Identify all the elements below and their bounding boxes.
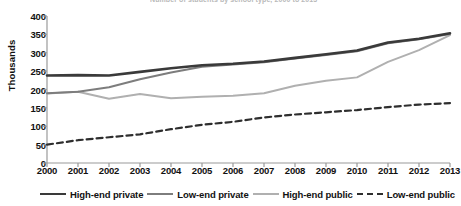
legend-swatch-icon xyxy=(40,193,66,195)
line-chart-figure: Number of students by school type, 2000 … xyxy=(0,0,461,206)
series-line-high-end-public xyxy=(47,35,450,99)
legend-item-high-end-private[interactable]: High-end private xyxy=(40,189,143,200)
plot-svg xyxy=(47,16,450,163)
y-axis-tick-50: 50 xyxy=(14,139,46,150)
legend-swatch-icon xyxy=(357,193,383,195)
y-axis-tick-250: 250 xyxy=(14,66,46,77)
x-axis-tick-2013: 2013 xyxy=(430,165,461,176)
clipped-chart-title: Number of students by school type, 2000 … xyxy=(150,0,450,4)
legend-label: High-end private xyxy=(70,189,143,200)
y-axis-tick-350: 350 xyxy=(14,29,46,40)
y-axis-tick-200: 200 xyxy=(14,84,46,95)
legend-item-high-end-public[interactable]: High-end public xyxy=(253,189,353,200)
series-line-low-end-public xyxy=(47,103,450,145)
series-line-high-end-private xyxy=(47,33,450,75)
y-axis-tick-150: 150 xyxy=(14,102,46,113)
legend-label: Low-end private xyxy=(177,189,248,200)
chart-legend: High-end privateLow-end privateHigh-end … xyxy=(40,186,455,202)
legend-item-low-end-private[interactable]: Low-end private xyxy=(147,189,248,200)
y-axis-tick-300: 300 xyxy=(14,47,46,58)
plot-area xyxy=(47,16,450,163)
legend-item-low-end-public[interactable]: Low-end public xyxy=(357,189,455,200)
legend-label: Low-end public xyxy=(387,189,455,200)
legend-label: High-end public xyxy=(283,189,353,200)
legend-swatch-icon xyxy=(147,193,173,195)
y-axis-tick-400: 400 xyxy=(14,11,46,22)
x-axis-tick-labels: 2000200120022003200420052006200720082009… xyxy=(47,165,450,181)
legend-swatch-icon xyxy=(253,193,279,195)
y-axis-tick-100: 100 xyxy=(14,121,46,132)
